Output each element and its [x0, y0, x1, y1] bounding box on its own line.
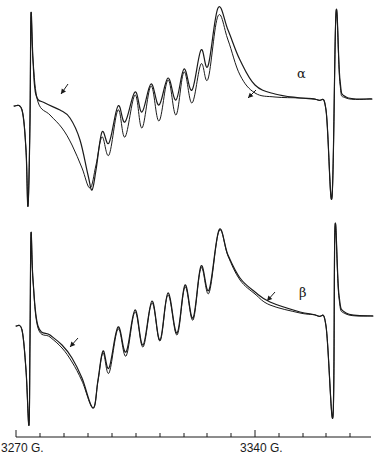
alpha-label: α [297, 66, 306, 81]
beta-label: β [299, 285, 307, 300]
alpha-trace-1 [14, 7, 372, 207]
field-axis [16, 430, 371, 437]
epr-spectra-plot [0, 0, 387, 462]
tick-label-3340: 3340 G. [240, 441, 283, 455]
alpha-trace-2 [14, 10, 372, 207]
beta-trace-1 [16, 223, 373, 425]
tick-label-3270: 3270 G. [1, 441, 44, 455]
alpha-arrow-icon-1-head [61, 88, 66, 94]
alpha-spectrum-panel [14, 7, 372, 207]
beta-trace-2 [16, 223, 373, 425]
beta-spectrum-panel [16, 223, 373, 425]
